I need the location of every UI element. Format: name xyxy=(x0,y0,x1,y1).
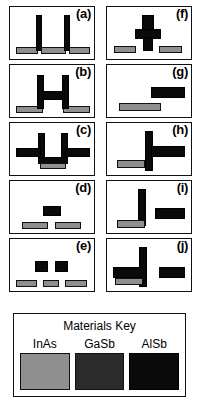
block-inas xyxy=(16,280,37,287)
block-alsb xyxy=(43,206,61,216)
block-alsb xyxy=(155,208,185,219)
block-inas xyxy=(114,46,136,53)
panel-i: (i) xyxy=(106,180,192,234)
block-inas xyxy=(43,280,59,287)
block-alsb xyxy=(151,146,185,157)
block-inas xyxy=(41,47,66,54)
key-label-gasb: GaSb xyxy=(84,338,115,351)
materials-key-columns: InAs GaSb AlSb xyxy=(20,338,179,390)
panel-label: (h) xyxy=(172,123,188,137)
panel-g: (g) xyxy=(106,64,192,118)
panel-j: (j) xyxy=(106,238,192,292)
block-inas xyxy=(65,280,87,287)
panel-label: (e) xyxy=(76,239,91,253)
key-column-inas: InAs xyxy=(20,338,70,390)
figure-root: (a) (b) (c) (d) xyxy=(0,0,199,419)
block-inas xyxy=(119,103,161,111)
panel-label: (d) xyxy=(75,181,91,195)
block-alsb xyxy=(62,75,69,109)
panel-label: (j) xyxy=(177,239,188,253)
block-alsb xyxy=(64,15,70,51)
block-inas xyxy=(16,47,38,54)
block-inas xyxy=(69,47,90,54)
key-swatch-alsb xyxy=(129,353,179,390)
block-alsb xyxy=(55,261,68,272)
block-alsb xyxy=(36,15,42,51)
block-inas xyxy=(159,46,182,53)
panel-e: (e) xyxy=(9,238,95,292)
block-inas xyxy=(40,163,66,169)
panel-h: (h) xyxy=(106,122,192,176)
materials-key: Materials Key InAs GaSb AlSb xyxy=(13,313,186,397)
key-column-gasb: GaSb xyxy=(75,338,125,390)
key-column-alsb: AlSb xyxy=(129,338,179,390)
block-alsb xyxy=(35,261,48,272)
panel-c: (c) xyxy=(9,122,95,176)
block-alsb xyxy=(16,148,41,157)
panel-d: (d) xyxy=(9,180,95,234)
panel-label: (a) xyxy=(76,7,91,21)
block-alsb xyxy=(65,148,90,157)
panel-a: (a) xyxy=(9,6,95,60)
block-alsb xyxy=(151,87,185,98)
panel-f: (f) xyxy=(106,6,192,60)
panel-label: (g) xyxy=(172,65,188,79)
block-inas xyxy=(55,222,81,229)
block-inas xyxy=(115,278,143,285)
block-alsb xyxy=(43,91,63,100)
materials-key-title: Materials Key xyxy=(14,319,185,333)
key-label-inas: InAs xyxy=(33,338,57,351)
panel-label: (c) xyxy=(76,123,91,137)
panel-label: (b) xyxy=(75,65,91,79)
block-alsb xyxy=(143,37,153,51)
block-alsb xyxy=(159,267,185,278)
block-inas xyxy=(117,220,145,228)
panel-label: (f) xyxy=(176,7,188,21)
key-swatch-inas xyxy=(20,353,70,390)
block-inas xyxy=(22,222,48,229)
key-swatch-gasb xyxy=(75,353,125,390)
panel-b: (b) xyxy=(9,64,95,118)
block-alsb xyxy=(113,267,147,278)
key-label-alsb: AlSb xyxy=(142,338,167,351)
panel-label: (i) xyxy=(177,181,188,195)
block-inas xyxy=(117,160,145,168)
